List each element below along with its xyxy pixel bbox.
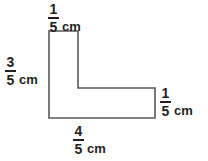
unit-label: cm (87, 142, 106, 155)
l-shape-outline (49, 31, 155, 118)
fraction-four-fifths-bottom: 4 5 (73, 124, 84, 156)
top-side-length-label: 1 5 cm (48, 2, 81, 34)
fraction-three-fifths-left: 3 5 (5, 55, 16, 87)
numerator: 1 (162, 86, 170, 100)
denominator: 5 (162, 104, 170, 118)
denominator: 5 (75, 142, 83, 156)
left-side-length-label: 3 5 cm (5, 55, 38, 87)
bottom-side-length-label: 4 5 cm (73, 124, 106, 156)
unit-label: cm (174, 104, 193, 117)
numerator: 3 (7, 55, 15, 69)
denominator: 5 (50, 20, 58, 34)
denominator: 5 (7, 73, 15, 87)
fraction-one-fifth-right: 1 5 (160, 86, 171, 118)
numerator: 1 (50, 2, 58, 16)
unit-label: cm (62, 20, 81, 33)
right-side-length-label: 1 5 cm (160, 86, 193, 118)
unit-label: cm (19, 73, 38, 86)
figure-container: 1 5 cm 3 5 cm 1 5 cm 4 5 cm (0, 0, 208, 161)
fraction-one-fifth-top: 1 5 (48, 2, 59, 34)
numerator: 4 (75, 124, 83, 138)
